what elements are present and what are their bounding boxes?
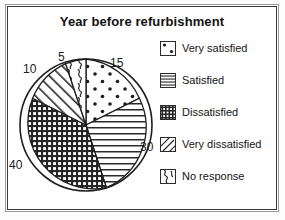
- diagonal-lines-swatch-icon: [160, 137, 176, 152]
- pie-chart: [16, 55, 156, 195]
- chart-title: Year before refurbishment: [7, 14, 277, 29]
- legend-label: Very satisfied: [182, 42, 247, 54]
- legend-item-very-dissatisfied: Very dissatisfied: [160, 136, 278, 152]
- dots-swatch-icon: [160, 41, 176, 56]
- legend-item-dissatisfied: Dissatisfied: [160, 104, 278, 120]
- pie-value-label-dissatisfied: 40: [9, 158, 22, 172]
- legend-label: Very dissatisfied: [182, 138, 261, 150]
- legend-item-satisfied: Satisfied: [160, 72, 278, 88]
- pie-value-label-very-satisfied: 15: [110, 56, 123, 70]
- legend-item-no-response: No response: [160, 168, 278, 184]
- chart-page: Year before refurbishment: [0, 0, 285, 220]
- legend-label: No response: [182, 170, 244, 182]
- pie-value-label-very-dissatisfied: 10: [23, 62, 36, 76]
- chart-legend: Very satisfied Satisfied: [160, 40, 278, 184]
- squiggle-swatch-icon: [160, 169, 176, 184]
- grid-swatch-icon: [160, 105, 176, 120]
- pie-value-label-no-response: 5: [58, 50, 65, 64]
- legend-label: Dissatisfied: [182, 106, 238, 118]
- legend-item-very-satisfied: Very satisfied: [160, 40, 278, 56]
- pie-value-label-satisfied: 30: [140, 140, 153, 154]
- legend-label: Satisfied: [182, 74, 224, 86]
- horizontal-lines-swatch-icon: [160, 73, 176, 88]
